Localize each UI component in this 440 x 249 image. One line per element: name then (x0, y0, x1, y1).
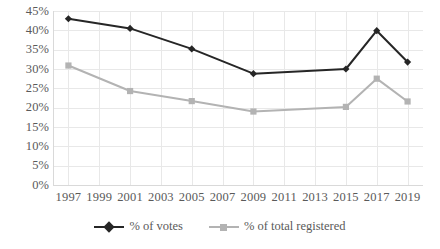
x-axis-tick-label: 2003 (148, 190, 174, 204)
series-line (68, 66, 407, 112)
data-point-square-icon (404, 98, 410, 104)
y-axis-line (53, 11, 54, 185)
x-axis-tick-label: 2011 (272, 190, 297, 204)
data-point-diamond-icon (126, 25, 133, 32)
legend-label-votes: % of votes (128, 219, 182, 234)
y-axis-tick-label: 30% (5, 63, 49, 76)
data-point-square-icon (189, 98, 195, 104)
data-point-diamond-icon (250, 70, 257, 77)
plot-area (53, 11, 423, 185)
data-point-diamond-icon (188, 45, 195, 52)
legend-item-total-registered[interactable]: % of total registered (209, 219, 346, 234)
series-diamond (65, 15, 411, 77)
y-axis-tick-label: 25% (5, 82, 49, 95)
y-axis-tick-labels: 45%40%35%30%25%20%15%10%5%0% (0, 0, 49, 249)
x-axis-tick-label: 2013 (302, 190, 328, 204)
data-point-square-icon (343, 104, 349, 110)
y-axis-tick-label: 20% (5, 101, 49, 114)
legend-item-votes[interactable]: % of votes (94, 219, 182, 234)
y-axis-tick-label: 5% (5, 159, 49, 172)
series-line (68, 19, 407, 74)
x-axis-tick-label: 2007 (210, 190, 236, 204)
data-point-diamond-icon (65, 15, 72, 22)
data-series-layer (53, 11, 423, 185)
y-axis-tick-label: 0% (5, 179, 49, 192)
data-point-square-icon (65, 62, 71, 68)
x-axis-tick-label: 2009 (241, 190, 267, 204)
legend-label-total-registered: % of total registered (243, 219, 346, 234)
chart-legend: % of votes % of total registered (0, 219, 440, 234)
data-point-square-icon (374, 76, 380, 82)
legend-marker-square-icon (209, 221, 239, 232)
line-chart: 45%40%35%30%25%20%15%10%5%0% 19971999200… (0, 0, 440, 249)
y-axis-tick-label: 40% (5, 24, 49, 37)
x-axis-tick-label: 2017 (364, 190, 390, 204)
y-axis-tick-label: 45% (5, 5, 49, 18)
y-axis-tick-label: 15% (5, 121, 49, 134)
x-axis-tick-label: 2015 (333, 190, 359, 204)
data-point-square-icon (127, 88, 133, 94)
x-axis-line (53, 185, 423, 186)
data-point-square-icon (250, 108, 256, 114)
x-axis-tick-label: 1997 (56, 190, 82, 204)
legend-marker-diamond-icon (94, 221, 124, 232)
x-axis-tick-label: 2005 (179, 190, 205, 204)
series-square (65, 62, 410, 114)
x-axis-tick-labels: 1997199920012003200520072009201120132015… (53, 190, 423, 210)
y-axis-tick-label: 35% (5, 43, 49, 56)
x-axis-tick-label: 2019 (395, 190, 421, 204)
y-axis-tick-label: 10% (5, 140, 49, 153)
x-axis-tick-label: 2001 (117, 190, 143, 204)
x-axis-tick-label: 1999 (86, 190, 112, 204)
